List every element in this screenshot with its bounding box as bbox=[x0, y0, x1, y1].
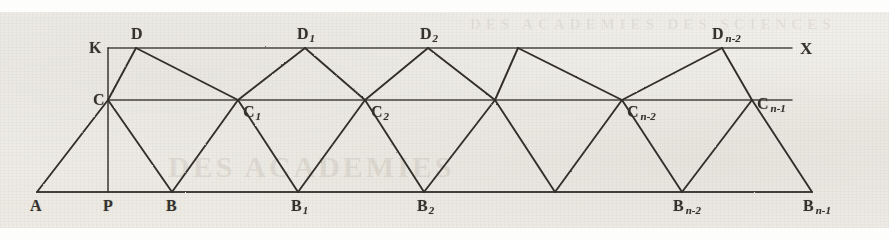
diagonal-D1-C2 bbox=[305, 48, 365, 100]
diagonal-Dn2-Cn1 bbox=[722, 48, 752, 100]
vertex-label-Dn2: Dn-2 bbox=[712, 26, 739, 42]
vertex-label-D1-sub: 1 bbox=[310, 32, 316, 44]
diagonal-Dm-Cn2 bbox=[518, 48, 622, 100]
vertex-label-Cn2: Cn-2 bbox=[627, 104, 654, 120]
vertex-label-Cn1: Cn-1 bbox=[757, 96, 784, 112]
vertex-label-B2-base: B bbox=[417, 197, 428, 214]
vertex-label-C1-base: C bbox=[243, 103, 255, 120]
diagonal-Cn2-Dn2 bbox=[622, 48, 722, 100]
vertex-label-Dn2-sub: n-2 bbox=[726, 32, 741, 44]
diagonal-C-B bbox=[108, 100, 172, 192]
vertex-label-Cn2-sub: n-2 bbox=[641, 110, 656, 122]
diagonal-D-C1 bbox=[136, 48, 238, 100]
vertex-label-C1-sub: 1 bbox=[256, 110, 262, 122]
diagonal-D2-Cm bbox=[428, 48, 495, 100]
vertex-label-D2-base: D bbox=[420, 25, 432, 42]
vertex-label-C2-base: C bbox=[371, 103, 383, 120]
vertex-label-Bn1: Bn-1 bbox=[803, 198, 829, 214]
diagonal-A-C bbox=[37, 100, 108, 192]
diagonal-C-D bbox=[108, 48, 136, 100]
vertex-label-B1: B1 bbox=[291, 198, 307, 214]
diagonal-C1-D1 bbox=[238, 48, 305, 100]
vertex-label-Bn2-base: B bbox=[673, 197, 684, 214]
vertex-label-Cn1-base: C bbox=[757, 95, 769, 112]
vertex-label-Bn2: Bn-2 bbox=[673, 198, 699, 214]
vertex-label-D1-base: D bbox=[297, 25, 309, 42]
diagonal-C2-D2 bbox=[365, 48, 428, 100]
vertex-label-D1: D1 bbox=[297, 26, 314, 42]
diagonal-Cm-Dm bbox=[495, 48, 518, 100]
axis-label-X: X bbox=[800, 40, 812, 57]
vertex-label-Bn1-sub: n-1 bbox=[816, 204, 831, 216]
diagonal-B-C1 bbox=[172, 100, 238, 192]
vertex-label-Cn2-base: C bbox=[627, 103, 639, 120]
vertex-label-C1: C1 bbox=[243, 104, 260, 120]
figure-page: DES ACADEMIES DES ACADEMIES DES SCIENCES bbox=[0, 0, 889, 240]
diagonal-B1-C2 bbox=[298, 100, 365, 192]
vertex-label-B1-base: B bbox=[291, 197, 302, 214]
vertex-label-D2-sub: 2 bbox=[433, 32, 439, 44]
vertex-label-C2: C2 bbox=[371, 104, 388, 120]
vertex-label-A: A bbox=[30, 198, 42, 214]
diagonal-Cm-Bm bbox=[495, 100, 555, 192]
vertex-label-Bn2-sub: n-2 bbox=[686, 204, 701, 216]
vertex-label-Bn1-base: B bbox=[803, 197, 814, 214]
vertex-label-D2: D2 bbox=[420, 26, 437, 42]
diagonal-Bn2-Cn1 bbox=[682, 100, 752, 192]
vertex-label-B1-sub: 1 bbox=[303, 204, 309, 216]
vertex-label-C2-sub: 2 bbox=[384, 110, 390, 122]
vertex-label-D: D bbox=[131, 26, 143, 42]
diagonal-Bm-Cn2 bbox=[555, 100, 622, 192]
diagonal-B2-Cm bbox=[424, 100, 495, 192]
vertex-label-B: B bbox=[166, 198, 177, 214]
vertex-label-Cn1-sub: n-1 bbox=[771, 102, 786, 114]
vertex-label-Dn2-base: D bbox=[712, 25, 724, 42]
vertex-label-K: K bbox=[89, 40, 101, 56]
vertex-label-P: P bbox=[103, 198, 113, 214]
vertex-label-B2: B2 bbox=[417, 198, 433, 214]
vertex-label-C: C bbox=[93, 92, 105, 108]
vertex-label-B2-sub: 2 bbox=[429, 204, 435, 216]
